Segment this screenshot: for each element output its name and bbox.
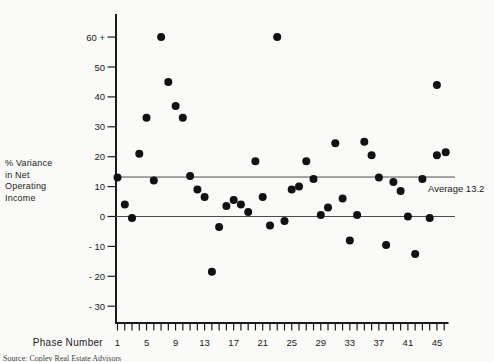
data-point [273, 33, 281, 41]
data-point [331, 139, 339, 147]
y-axis-tick-label: 60 + [86, 32, 105, 43]
data-point [237, 201, 245, 209]
average-line-label: Average 13.2 [428, 183, 484, 194]
data-point [121, 201, 129, 209]
y-axis-tick-label: 20 [94, 151, 105, 162]
x-axis-tick-label: 33 [345, 337, 356, 348]
data-point [426, 214, 434, 222]
x-axis-tick-label: 5 [144, 337, 149, 348]
data-point [404, 213, 412, 221]
y-axis-title: % Variance in Net Operating Income [5, 158, 52, 205]
y-axis-tick-label: 40 [94, 91, 105, 102]
data-point [172, 102, 180, 110]
x-axis-tick-label: 13 [199, 337, 210, 348]
data-point [164, 78, 172, 86]
data-point [310, 175, 318, 183]
x-axis-title: Phase Number [0, 337, 103, 348]
data-point [433, 151, 441, 159]
data-point [346, 236, 354, 244]
data-point [150, 177, 158, 185]
data-point [353, 211, 361, 219]
source-credit: Source: Copley Real Estate Advisors [3, 354, 121, 362]
x-axis-tick-label: 25 [286, 337, 297, 348]
data-point [339, 195, 347, 203]
data-point [259, 193, 267, 201]
data-point [201, 193, 209, 201]
data-point [114, 174, 122, 182]
y-axis-tick-label: 10 [94, 181, 105, 192]
data-point [295, 183, 303, 191]
data-point [375, 174, 383, 182]
data-point [208, 268, 216, 276]
y-axis-tick-label: 30 [94, 121, 105, 132]
data-point [193, 186, 201, 194]
y-axis-tick-label: 50 [94, 62, 105, 73]
scatter-plot: 60 +50403020100- 10- 20- 301591317212529… [0, 0, 494, 362]
data-point [324, 204, 332, 212]
x-axis-tick-label: 21 [257, 337, 268, 348]
y-axis-tick-label: - 10 [89, 241, 105, 252]
data-point [179, 114, 187, 122]
scatter-chart-page: 60 +50403020100- 10- 20- 301591317212529… [0, 0, 494, 362]
data-point [302, 157, 310, 165]
x-axis-tick-label: 37 [374, 337, 385, 348]
data-point [317, 211, 325, 219]
data-point [222, 202, 230, 210]
data-point [360, 138, 368, 146]
x-axis-tick-label: 17 [228, 337, 239, 348]
data-point [389, 178, 397, 186]
data-point [230, 196, 238, 204]
data-point [186, 172, 194, 180]
y-axis-tick-label: - 30 [89, 301, 105, 312]
data-point [288, 186, 296, 194]
data-point [157, 33, 165, 41]
x-axis-tick-label: 1 [115, 337, 120, 348]
data-point [244, 208, 252, 216]
x-axis-tick-label: 29 [315, 337, 326, 348]
y-axis-title-line: in Net [5, 170, 52, 182]
y-axis-title-line: Operating [5, 181, 52, 193]
data-point [135, 150, 143, 158]
data-point [215, 223, 223, 231]
x-axis-tick-label: 41 [403, 337, 414, 348]
data-point [281, 217, 289, 225]
data-point [442, 148, 450, 156]
y-axis-title-line: Income [5, 193, 52, 205]
data-point [143, 114, 151, 122]
y-axis-tick-label: - 20 [89, 271, 105, 282]
x-axis-tick-label: 45 [432, 337, 443, 348]
data-point [382, 241, 390, 249]
data-point [251, 157, 259, 165]
y-axis-tick-label: 0 [100, 211, 105, 222]
data-point [411, 250, 419, 258]
data-point [418, 175, 426, 183]
data-point [266, 222, 274, 230]
data-point [128, 214, 136, 222]
y-axis-title-line: % Variance [5, 158, 52, 170]
data-point [433, 81, 441, 89]
data-point [397, 187, 405, 195]
data-point [368, 151, 376, 159]
x-axis-tick-label: 9 [173, 337, 178, 348]
